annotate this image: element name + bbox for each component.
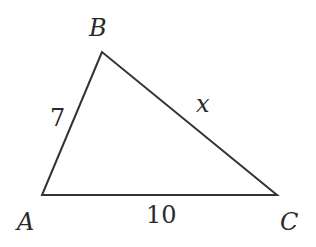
vertex-label-c: C [280,210,298,234]
vertex-label-b: B [89,16,107,40]
side-label-ab: 7 [50,106,65,130]
triangle-diagram: B A C 7 10 x [0,0,316,247]
side-label-bc: x [196,92,210,116]
side-label-ac: 10 [146,203,177,227]
vertex-label-a: A [17,210,34,234]
